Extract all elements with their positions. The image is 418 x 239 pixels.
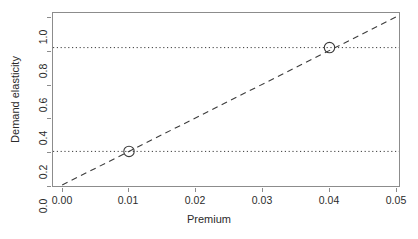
x-tick-label-3: 0.03 [252,195,272,206]
x-tick-label-1: 0.01 [118,195,138,206]
x-axis-title: Premium [0,214,418,225]
elasticity-line [62,17,396,185]
y-tick-label-1: 0.2 [38,152,49,192]
y-axis-title: Demand elasticity [10,12,26,187]
x-tickmark-3 [262,188,263,192]
x-tick-label-0: 0.00 [52,195,72,206]
y-tick-label-5: 1.0 [38,17,49,57]
y-tick-label-3-text: 0.6 [38,98,49,113]
x-tickmark-1 [128,188,129,192]
y-tick-label-1-text: 0.2 [38,165,49,180]
x-tickmark-0 [62,188,63,192]
y-tick-label-4: 0.8 [38,51,49,91]
y-tick-label-4-text: 0.8 [38,64,49,79]
y-tick-label-2-text: 0.4 [38,131,49,146]
y-tick-label-0-text: 0.0 [38,199,49,214]
x-tick-label-5: 0.05 [386,195,406,206]
plot-canvas [53,13,399,186]
x-tickmark-5 [396,188,397,192]
x-tickmark-2 [195,188,196,192]
x-tickmark-4 [329,188,330,192]
x-tick-label-4: 0.04 [319,195,339,206]
chart-figure: 0.00 0.01 0.02 0.03 0.04 0.05 0.0 0.2 0.… [0,0,418,239]
y-tick-label-3: 0.6 [38,85,49,125]
point-high-marker [324,42,334,52]
y-tick-label-5-text: 1.0 [38,30,49,45]
x-tick-label-2: 0.02 [185,195,205,206]
plot-panel [52,12,400,187]
